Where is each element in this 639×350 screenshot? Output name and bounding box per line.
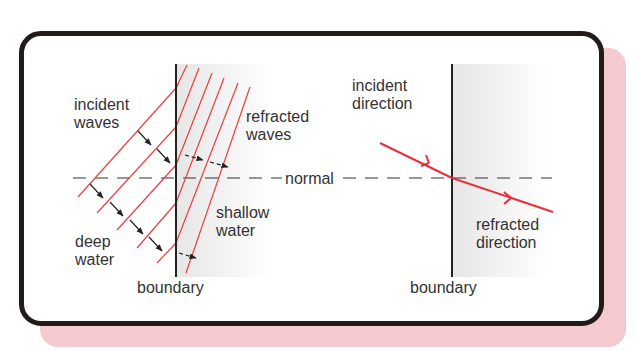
boundary-label-right: boundary (410, 279, 477, 297)
refracted-waves-label: refracted waves (246, 108, 309, 144)
incident-direction-label: incident direction (352, 77, 412, 113)
refracted-direction-label: refracted direction (476, 216, 539, 252)
deep-water-label: deep water (75, 233, 114, 269)
shallow-water-label: shallow water (216, 204, 269, 240)
normal-label: normal (285, 170, 334, 188)
incident-ray (380, 143, 452, 178)
boundary-label-left: boundary (137, 279, 204, 297)
incident-waves-label: incident waves (74, 96, 129, 132)
shallow-region-left (176, 64, 272, 277)
